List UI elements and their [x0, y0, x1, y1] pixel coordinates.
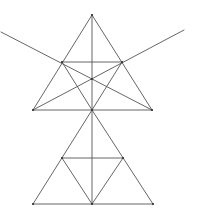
point-O [91, 78, 93, 80]
segment-D-F [62, 62, 92, 110]
segment-E-F [92, 62, 122, 110]
segment-L1-C [1, 32, 152, 110]
geometry-figure [0, 0, 199, 213]
point-B [32, 109, 34, 111]
point-F [91, 109, 93, 111]
segment-B-R1 [33, 30, 184, 110]
point-K [91, 203, 93, 205]
point-G [32, 203, 34, 205]
point-I [61, 157, 63, 159]
point-C [151, 109, 153, 111]
point-J [122, 157, 124, 159]
segment-I-K [62, 158, 92, 204]
point-D [61, 61, 63, 63]
point-E [121, 61, 123, 63]
point-A [91, 14, 93, 16]
segment-J-K [92, 158, 123, 204]
point-H [152, 203, 154, 205]
